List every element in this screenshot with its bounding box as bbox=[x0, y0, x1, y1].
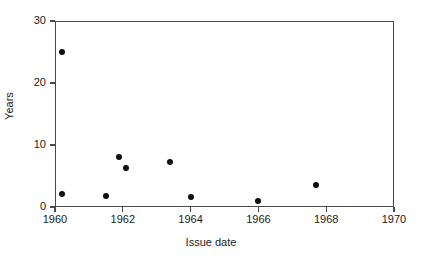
data-point bbox=[59, 191, 65, 197]
x-tick-label: 1962 bbox=[93, 213, 153, 226]
x-tick-mark bbox=[326, 207, 327, 212]
y-axis-title: Years bbox=[3, 71, 15, 141]
y-tick-label: 0 bbox=[6, 200, 46, 213]
plot-area bbox=[55, 21, 394, 207]
y-tick-mark bbox=[50, 20, 55, 21]
x-axis-title: Issue date bbox=[0, 236, 422, 248]
y-tick-mark bbox=[50, 144, 55, 145]
data-point bbox=[103, 193, 109, 199]
data-point bbox=[188, 194, 194, 200]
x-tick-mark bbox=[122, 207, 123, 212]
x-tick-label: 1968 bbox=[296, 213, 356, 226]
x-tick-label: 1964 bbox=[161, 213, 221, 226]
y-tick-label: 30 bbox=[6, 14, 46, 27]
x-tick-label: 1970 bbox=[364, 213, 422, 226]
x-tick-mark bbox=[258, 207, 259, 212]
y-tick-mark bbox=[50, 206, 55, 207]
x-tick-mark bbox=[190, 207, 191, 212]
x-tick-label: 1960 bbox=[25, 213, 85, 226]
x-tick-label: 1966 bbox=[228, 213, 288, 226]
x-tick-mark bbox=[393, 207, 394, 212]
scatter-chart: 196019621964196619681970 0102030 Issue d… bbox=[0, 0, 422, 258]
y-tick-mark bbox=[50, 82, 55, 83]
data-point bbox=[59, 49, 65, 55]
x-tick-mark bbox=[54, 207, 55, 212]
data-point bbox=[167, 159, 173, 165]
